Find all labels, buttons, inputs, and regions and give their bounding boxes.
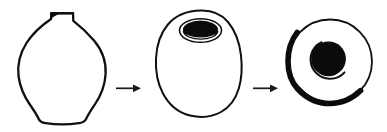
stage-2-tilted-view-vase <box>156 11 242 117</box>
vase-transformation-figure: Vessel view transformation sequence <box>0 0 387 132</box>
figure-canvas <box>0 0 387 132</box>
vase-top-mouth <box>311 41 346 76</box>
stage-3-top-view-vase <box>288 20 372 104</box>
